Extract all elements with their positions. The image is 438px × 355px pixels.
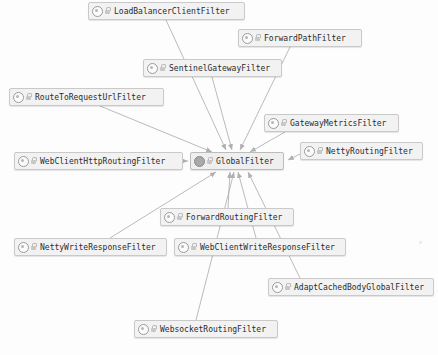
diagram-canvas[interactable]: LoadBalancerClientFilterForwardPathFilte… — [0, 0, 438, 355]
class-icon — [178, 242, 189, 253]
node-label: RouteToRequestUrlFilter — [35, 93, 146, 102]
edge-gatewayMetricsFilter-to-globalFilter — [250, 132, 285, 152]
class-icon — [18, 242, 29, 253]
node-label: LoadBalancerClientFilter — [114, 7, 230, 16]
node-loadBalancerClientFilter[interactable]: LoadBalancerClientFilter — [88, 2, 245, 20]
node-label: ForwardRoutingFilter — [186, 213, 282, 222]
node-label: NettyWriteResponseFilter — [40, 243, 156, 252]
node-label: GlobalFilter — [216, 157, 274, 166]
node-nettyWriteResponseFilter[interactable]: NettyWriteResponseFilter — [14, 238, 167, 256]
lock-icon — [207, 157, 213, 166]
lock-icon — [191, 243, 197, 252]
node-sentinelGatewayFilter[interactable]: SentinelGatewayFilter — [143, 59, 282, 77]
edge-webClientWriteResponseFilter-to-globalFilter — [238, 172, 256, 238]
class-icon — [138, 324, 149, 335]
lock-icon — [317, 147, 323, 156]
lock-icon — [281, 119, 287, 128]
edge-loadBalancerClientFilter-to-globalFilter — [166, 20, 226, 150]
node-label: WebClientWriteResponseFilter — [200, 243, 335, 252]
node-forwardRoutingFilter[interactable]: ForwardRoutingFilter — [160, 208, 294, 226]
edge-layer — [0, 0, 438, 355]
node-nettyRoutingFilter[interactable]: NettyRoutingFilter — [300, 142, 423, 160]
lock-icon — [151, 325, 157, 334]
node-webClientWriteResponseFilter[interactable]: WebClientWriteResponseFilter — [174, 238, 346, 256]
interface-icon — [194, 156, 205, 167]
class-icon — [272, 282, 283, 293]
lock-icon — [177, 213, 183, 222]
node-globalFilter[interactable]: GlobalFilter — [190, 152, 284, 170]
class-icon — [242, 33, 253, 44]
lock-icon — [105, 7, 111, 16]
lock-icon — [160, 64, 166, 73]
lock-icon — [31, 243, 37, 252]
edge-nettyWriteResponseFilter-to-globalFilter — [110, 172, 216, 238]
node-label: AdaptCachedBodyGlobalFilter — [294, 283, 424, 292]
node-label: ForwardPathFilter — [264, 34, 346, 43]
edge-routeToRequestUrlFilter-to-globalFilter — [100, 106, 212, 152]
lock-icon — [31, 157, 37, 166]
class-icon — [147, 63, 158, 74]
node-label: GatewayMetricsFilter — [290, 119, 386, 128]
class-icon — [268, 118, 279, 129]
node-adaptCachedBodyGlobalFilter[interactable]: AdaptCachedBodyGlobalFilter — [268, 278, 434, 296]
class-icon — [164, 212, 175, 223]
node-gatewayMetricsFilter[interactable]: GatewayMetricsFilter — [264, 114, 399, 132]
node-webClientHttpRoutingFilter[interactable]: WebClientHttpRoutingFilter — [14, 152, 183, 170]
edge-sentinelGatewayFilter-to-globalFilter — [212, 77, 232, 150]
node-label: NettyRoutingFilter — [326, 147, 413, 156]
node-routeToRequestUrlFilter[interactable]: RouteToRequestUrlFilter — [9, 88, 164, 106]
class-icon — [92, 6, 103, 17]
edge-forwardRoutingFilter-to-globalFilter — [228, 172, 230, 208]
node-websocketRoutingFilter[interactable]: WebsocketRoutingFilter — [134, 320, 278, 338]
class-icon — [13, 92, 24, 103]
node-label: WebClientHttpRoutingFilter — [40, 157, 165, 166]
canvas-speck — [419, 241, 422, 244]
lock-icon — [255, 34, 261, 43]
class-icon — [304, 146, 315, 157]
node-label: SentinelGatewayFilter — [169, 64, 270, 73]
node-forwardPathFilter[interactable]: ForwardPathFilter — [238, 29, 362, 47]
class-icon — [18, 156, 29, 167]
lock-icon — [26, 93, 32, 102]
edge-nettyRoutingFilter-to-globalFilter — [288, 154, 300, 160]
lock-icon — [285, 283, 291, 292]
node-label: WebsocketRoutingFilter — [160, 325, 266, 334]
